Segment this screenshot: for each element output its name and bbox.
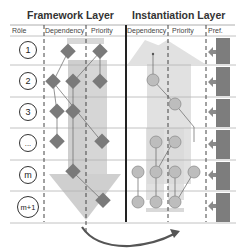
- diamond: [45, 74, 61, 90]
- node: [150, 196, 162, 208]
- transfer-arrow-head: [170, 229, 180, 238]
- header-fw-priority: Priority: [91, 27, 113, 34]
- pref-bar: [216, 130, 230, 159]
- transfer-arrow: [82, 227, 174, 246]
- header-role: Rôle: [12, 27, 26, 34]
- node: [169, 136, 181, 148]
- diamond: [49, 104, 65, 120]
- in-start-dot: [152, 53, 154, 55]
- node: [188, 166, 200, 178]
- diamond: [60, 44, 76, 60]
- node: [132, 166, 144, 178]
- node: [169, 166, 181, 178]
- pref-bar: [216, 162, 230, 190]
- header-in-priority: Priority: [172, 27, 194, 34]
- node: [147, 74, 159, 86]
- header-pref: Pref.: [208, 27, 223, 34]
- fw-down-arrow-head: [49, 174, 121, 220]
- node: [150, 166, 162, 178]
- role-m: m: [19, 166, 37, 184]
- diamond: [92, 44, 108, 60]
- role-3: 3: [19, 103, 37, 121]
- diamond: [49, 134, 65, 150]
- pref-bar: [216, 193, 230, 222]
- pref-bar: [216, 99, 230, 127]
- role-ellipsis: ...: [19, 134, 37, 152]
- pref-bar: [216, 67, 230, 96]
- role-m-plus-1: m+1: [17, 196, 39, 218]
- pref-bar: [216, 38, 230, 64]
- in-bottom-bar: [146, 208, 184, 212]
- header-in-dependency: Dependency: [127, 27, 166, 34]
- header-fw-dependency: Dependency: [45, 27, 84, 34]
- node: [132, 196, 144, 208]
- node: [169, 196, 181, 208]
- role-2: 2: [19, 72, 37, 90]
- node: [150, 136, 162, 148]
- role-1: 1: [19, 41, 37, 59]
- pref-column: [208, 38, 230, 222]
- node: [169, 98, 181, 110]
